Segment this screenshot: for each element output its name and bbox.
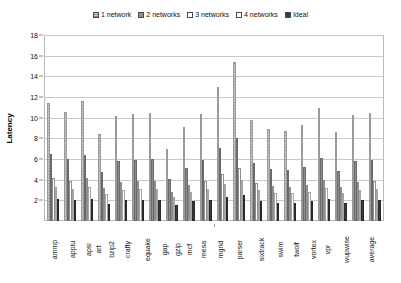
x-axis-label-cell: mesa <box>195 224 212 282</box>
x-axis-label: gap <box>162 244 169 256</box>
legend-swatch-icon <box>236 12 242 18</box>
legend-swatch-icon <box>187 12 193 18</box>
y-tick-label: 16 <box>30 52 38 59</box>
bar <box>158 200 160 221</box>
y-tick-mark <box>39 138 43 139</box>
x-axis-label-cell: gzip <box>171 224 184 282</box>
bar <box>74 200 76 221</box>
x-axis-label-cell: applu <box>64 224 81 282</box>
y-tick-label: 8 <box>34 135 38 142</box>
legend-item-label: 3 networks <box>195 11 229 19</box>
bar-group <box>265 36 282 221</box>
bars-layer <box>45 36 383 221</box>
y-axis-ticks: 24681012141618 <box>0 35 44 221</box>
legend-swatch-icon <box>285 12 291 18</box>
x-axis-label-cell: swim <box>273 224 289 282</box>
legend-item-3[interactable]: 4 networks <box>236 11 278 19</box>
x-axis-label: crafty <box>124 241 131 258</box>
y-tick-mark <box>39 35 43 36</box>
x-axis-label-cell: ammp <box>45 224 64 282</box>
legend-swatch-icon <box>138 12 144 18</box>
x-axis-label: ammp <box>51 240 58 259</box>
legend-item-2[interactable]: 3 networks <box>187 11 229 19</box>
x-axis-label-cell: vpr <box>323 224 333 282</box>
x-axis-label: bzip2 <box>107 241 114 258</box>
bar <box>226 197 228 221</box>
legend-item-4[interactable]: Ideal <box>285 11 308 19</box>
bar-group <box>45 36 62 221</box>
bar-group <box>130 36 147 221</box>
y-tick-label: 10 <box>30 114 38 121</box>
x-axis-label: vortex <box>310 240 317 259</box>
x-axis-label: swim <box>278 242 285 258</box>
bar-group <box>96 36 113 221</box>
legend-item-1[interactable]: 2 networks <box>138 11 180 19</box>
bar-group <box>113 36 130 221</box>
bar <box>277 203 279 222</box>
bar-group <box>332 36 349 221</box>
y-tick-label: 2 <box>34 197 38 204</box>
bar <box>328 199 330 221</box>
legend-item-label: 4 networks <box>244 11 278 19</box>
x-axis-label-cell: crafty <box>119 224 136 282</box>
x-axis-label: mcf <box>186 244 193 255</box>
x-axis-label-cell: wupwise <box>333 224 360 282</box>
bar <box>192 201 194 221</box>
legend-item-0[interactable]: 1 network <box>93 11 131 19</box>
bar-group <box>282 36 299 221</box>
legend-item-label: Ideal <box>293 11 308 19</box>
y-tick-label: 12 <box>30 94 38 101</box>
y-tick-mark <box>39 97 43 98</box>
x-axis-label: equake <box>144 238 151 261</box>
x-axis-label-cell: art <box>94 224 102 282</box>
x-axis-labels: ammpappluapsiartbzip2craftyequakegapgzip… <box>45 224 383 282</box>
x-axis-label: art <box>95 245 102 253</box>
x-axis-label: sixtrack <box>258 238 265 262</box>
bar-group <box>299 36 316 221</box>
x-axis-label: twolf <box>293 242 300 256</box>
bar-group <box>316 36 333 221</box>
bar <box>311 201 313 221</box>
bar-group <box>180 36 197 221</box>
x-axis-label-cell: mcf <box>184 224 195 282</box>
x-axis-label: applu <box>70 241 77 258</box>
bar <box>344 203 346 222</box>
y-tick-mark <box>39 117 43 118</box>
x-axis-label-cell: vortex <box>304 224 323 282</box>
bar <box>108 204 110 221</box>
y-tick-mark <box>39 159 43 160</box>
y-tick-mark <box>39 76 43 77</box>
bar <box>209 200 211 221</box>
x-axis-label: mgrid <box>218 241 225 259</box>
chart-legend: 1 network2 networks3 networks4 networksI… <box>0 11 401 19</box>
bar <box>57 199 59 221</box>
x-axis-label: gzip <box>174 243 181 256</box>
legend-item-label: 1 network <box>101 11 131 19</box>
legend-item-label: 2 networks <box>146 11 180 19</box>
y-tick-label: 14 <box>30 73 38 80</box>
x-tick-mark <box>214 224 215 227</box>
x-axis-label: wupwise <box>343 236 350 263</box>
bar <box>378 200 380 221</box>
y-tick-mark <box>39 200 43 201</box>
bar-group <box>248 36 265 221</box>
y-tick-label: 4 <box>34 176 38 183</box>
x-axis-label-cell: bzip2 <box>103 224 120 282</box>
bar <box>243 195 245 221</box>
legend-swatch-icon <box>93 12 99 18</box>
bar-group <box>231 36 248 221</box>
bar-group <box>146 36 163 221</box>
latency-bar-chart: 1 network2 networks3 networks4 networksI… <box>0 0 401 283</box>
bar <box>142 200 144 221</box>
bar-group <box>62 36 79 221</box>
x-axis-label-cell: parser <box>230 224 250 282</box>
bar-group <box>214 36 231 221</box>
x-axis-label: average <box>369 237 376 262</box>
bar-group <box>163 36 180 221</box>
y-tick-mark <box>39 55 43 56</box>
x-axis-label: apsi <box>85 243 92 256</box>
x-axis-label-cell: average <box>359 224 384 282</box>
bar <box>294 203 296 222</box>
bar <box>260 201 262 221</box>
bar <box>125 200 127 221</box>
